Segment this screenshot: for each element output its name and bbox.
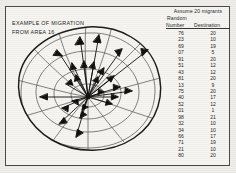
figure-caption-line-1: EXAMPLE OF MIGRATION [12, 20, 84, 26]
random-number-table: Assume 20 migrants Random Number Destina… [166, 8, 230, 159]
table-row: 8020 [166, 152, 230, 158]
table-column-headers: Number Destination [166, 22, 230, 30]
figure-page: EXAMPLE OF MIGRATION FROM AREA 16 Assume… [0, 0, 236, 173]
cell-random-number: 80 [166, 152, 196, 158]
origin-node-area-16 [86, 95, 91, 100]
cell-destination: 20 [196, 152, 230, 158]
figure-caption-line-2: FROM AREA 16 [12, 29, 55, 35]
mental-map-grid [17, 24, 160, 152]
assume-migrants-label: Assume 20 migrants [166, 8, 230, 14]
table-body: 7620231069190759120511243128120139752040… [166, 30, 230, 159]
column-header-destination: Destination [194, 22, 230, 28]
random-label: Random [166, 15, 230, 21]
column-header-number: Number [166, 22, 194, 28]
